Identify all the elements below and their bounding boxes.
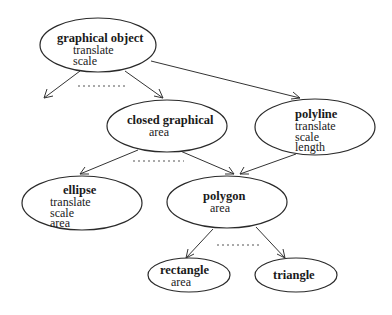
edge-polyline-to-polygon bbox=[240, 154, 296, 174]
edge-graphical-object-to-polyline bbox=[151, 61, 300, 98]
edge-closed-graphical-to-ellipse bbox=[80, 150, 138, 174]
node-polyline: polyline translate scale length bbox=[295, 108, 337, 153]
edge-graphical-object-to-unnamed bbox=[44, 71, 80, 98]
node-rectangle: rectangle area bbox=[160, 264, 209, 288]
arrowhead-icon bbox=[240, 167, 249, 174]
node-closed-graphical: closed graphical area bbox=[127, 114, 213, 138]
node-triangle: triangle bbox=[273, 269, 315, 282]
node-attr: scale bbox=[57, 56, 143, 67]
node-title: triangle bbox=[273, 269, 315, 282]
node-title: closed graphical bbox=[127, 114, 213, 127]
edge-polygon-to-rectangle bbox=[186, 229, 213, 258]
node-attr: translate bbox=[57, 45, 143, 56]
edge-polygon-to-triangle bbox=[256, 227, 285, 258]
arrowhead-icon bbox=[291, 92, 300, 99]
node-ellipse: ellipse translate scale area bbox=[50, 184, 96, 229]
node-graphical-object: graphical object translate scale bbox=[57, 32, 143, 66]
edge-graphical-object-to-closed-graphical bbox=[125, 71, 163, 98]
node-attr: length bbox=[295, 142, 337, 153]
node-attr: area bbox=[160, 277, 209, 288]
edge-closed-graphical-to-polygon bbox=[178, 150, 234, 174]
node-attr: area bbox=[203, 203, 245, 214]
node-attr: area bbox=[50, 218, 96, 229]
node-polygon: polygon area bbox=[203, 190, 245, 214]
node-attr: area bbox=[127, 127, 213, 138]
